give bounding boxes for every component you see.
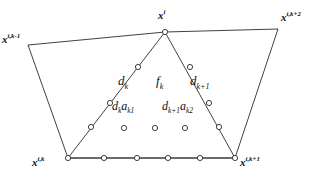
node-marker-interior-1: [121, 125, 126, 130]
annotation-dk: dk: [118, 74, 128, 87]
annotation-fk: fk: [156, 74, 163, 87]
vertex-label-x-i-k-plus-2: xi,k+2: [281, 12, 301, 23]
vertex-label-x-i-k: xi,k: [32, 157, 45, 168]
vertex-label-x-i-k-plus-1: xi,k+1: [240, 157, 260, 168]
annotation-dk-ak1: dkak1: [112, 100, 134, 112]
node-marker-interior-3: [182, 125, 187, 130]
figure-canvas: xi,k-1 xi xi,k+2 xi,k+1 xi,k dk fk dk+1 …: [0, 0, 324, 184]
node-marker-x-i-k-plus-1: [232, 155, 237, 160]
inner-fan-group: [68, 32, 235, 158]
node-marker-right-leg-3: [216, 124, 221, 129]
outer-quadrilateral-group: [28, 29, 278, 158]
vertex-label-x-i-k-minus-1: xi,k-1: [2, 34, 20, 45]
node-marker-left-leg-1: [135, 64, 140, 69]
node-marker-base-3: [165, 155, 170, 160]
node-marker-base-4: [197, 155, 202, 160]
outer-quadrilateral: [28, 29, 278, 158]
node-marker-x-i: [162, 29, 167, 34]
inner-right-leg: [165, 32, 235, 158]
annotation-dk-plus-1: dk+1: [190, 74, 210, 87]
node-marker-left-leg-3: [88, 124, 93, 129]
inner-left-leg: [68, 32, 165, 158]
node-marker-right-leg-2: [206, 100, 211, 105]
node-marker-base-1: [101, 155, 106, 160]
vertex-label-x-i: xi: [158, 10, 165, 21]
node-marker-base-2: [134, 155, 139, 160]
diagram-svg: [0, 0, 324, 184]
node-marker-right-leg-1: [187, 64, 192, 69]
node-marker-interior-2: [152, 125, 157, 130]
node-marker-x-i-k: [65, 155, 70, 160]
annotation-dk-plus-1-ak2: dk+1ak2: [162, 100, 193, 112]
